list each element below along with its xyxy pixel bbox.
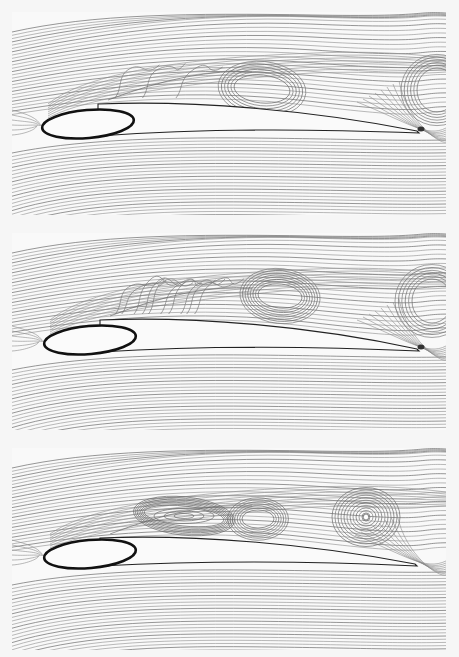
streamline-panel-middle [12, 233, 446, 430]
flow-plot-middle [12, 233, 446, 430]
flow-plot-top [12, 12, 446, 215]
flow-plot-bottom [12, 448, 446, 650]
trailing-edge-vortex [418, 127, 425, 132]
streamline-figure [0, 0, 459, 657]
vortex-core [364, 515, 368, 519]
streamline-panel-top [12, 12, 446, 215]
airfoil-leading-edge [43, 536, 137, 572]
streamline-panel-bottom [12, 448, 446, 650]
vortex [332, 488, 400, 547]
airfoil-leading-edge [41, 106, 135, 142]
airfoil-leading-edge [43, 322, 137, 358]
vortex [228, 498, 289, 540]
trailing-edge-vortex [418, 345, 425, 350]
